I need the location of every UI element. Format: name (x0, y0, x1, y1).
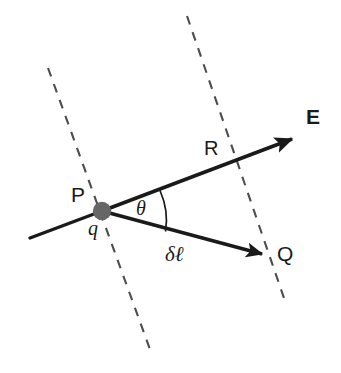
physics-diagram-canvas (0, 0, 341, 373)
label-point-P: P (71, 184, 85, 205)
label-field-vector-E: E (306, 106, 320, 127)
label-point-Q: Q (277, 243, 293, 264)
label-angle-theta: θ (136, 198, 146, 218)
label-distance-R: R (204, 138, 218, 158)
label-charge-q: q (88, 218, 98, 238)
label-displacement-delta-ell: δℓ (165, 244, 184, 265)
